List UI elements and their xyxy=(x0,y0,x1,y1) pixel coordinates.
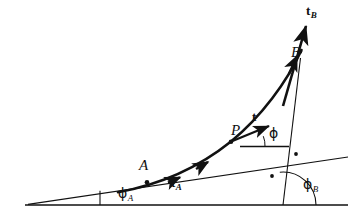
tangent-vector-b-arrow xyxy=(283,26,306,106)
angle-phi-b-symbol: ϕ xyxy=(303,176,312,192)
angle-phi-subscript xyxy=(278,133,279,143)
point-p-label: P xyxy=(231,123,240,138)
angle-arc-phi xyxy=(263,136,265,146)
tangent-b-label: tB xyxy=(306,4,317,20)
angle-phi-a-symbol: ϕ xyxy=(118,185,127,201)
tangent-p-label: t xyxy=(252,110,257,126)
angle-phi-a-subscript: A xyxy=(127,193,133,203)
angle-phi-b-label: ϕB xyxy=(303,177,318,194)
angle-region-dot-lower xyxy=(270,174,274,178)
tangent-b-subscript: B xyxy=(310,10,317,20)
point-a-label: A xyxy=(139,158,148,173)
angle-phi-label: ϕ xyxy=(269,126,279,143)
angle-phi-b-subscript: B xyxy=(312,184,318,194)
angle-phi-symbol: ϕ xyxy=(269,125,278,141)
point-marker-a xyxy=(145,180,150,185)
point-marker-p xyxy=(229,140,234,145)
tangent-a-label: tA xyxy=(171,176,182,192)
figure-container: tB B t P ϕ A tA ϕA ϕB xyxy=(0,0,358,222)
angle-region-dot-upper xyxy=(294,152,298,156)
tangent-p-subscript xyxy=(256,116,257,126)
tangent-line-a xyxy=(28,157,348,204)
point-b-label: B xyxy=(291,45,300,60)
tangent-a-subscript: A xyxy=(175,182,182,192)
angle-phi-a-label: ϕA xyxy=(118,186,133,203)
